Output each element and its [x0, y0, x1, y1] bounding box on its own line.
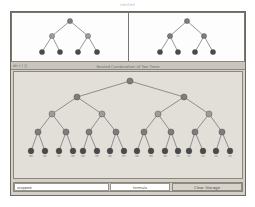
tree-node[interactable] [74, 94, 80, 100]
leaf-label: 05 [95, 155, 99, 158]
leaf-label: 15 [228, 155, 232, 158]
tree-edge [52, 21, 70, 36]
tree-edge [209, 114, 222, 132]
tree-node[interactable] [206, 111, 212, 117]
tree-node[interactable] [94, 49, 99, 54]
tree-node[interactable] [227, 148, 233, 154]
tree-edge [38, 114, 52, 132]
leaf-label: 13 [201, 155, 205, 158]
tree-node[interactable] [49, 111, 55, 117]
tree-edge [158, 114, 171, 132]
tree-node[interactable] [70, 148, 76, 154]
tree-edge [160, 36, 170, 52]
tree-edge [144, 114, 158, 132]
leaf-label: 12 [187, 155, 191, 158]
caption-bar: dir (-) [] Nested Combination of Two Tre… [11, 61, 245, 70]
leaf-label: 04 [81, 155, 85, 158]
tree-node[interactable] [148, 148, 154, 154]
status-field[interactable]: stopped [14, 183, 109, 191]
tree-edge [195, 114, 209, 132]
tree-node[interactable] [67, 18, 72, 23]
window-title-text: nested [0, 0, 255, 9]
tree-node[interactable] [49, 33, 54, 38]
top-tree-row [11, 12, 245, 62]
leaf-label: 00 [29, 155, 33, 158]
left-tree-graphic [12, 13, 129, 62]
tree-edge [187, 21, 204, 36]
tree-edge [77, 97, 102, 114]
leaf-label: 11 [176, 155, 180, 158]
tree-node[interactable] [127, 78, 133, 84]
tree-node[interactable] [219, 129, 225, 135]
tree-edge [52, 97, 77, 114]
leaf-label: 01 [43, 155, 47, 158]
tree-node[interactable] [121, 148, 127, 154]
formula-field[interactable]: formula [110, 183, 170, 191]
tree-node[interactable] [63, 129, 69, 135]
tree-edge [130, 81, 184, 97]
bottom-bar: stopped formula Clear Storage [13, 182, 243, 192]
tree-node[interactable] [213, 148, 219, 154]
tree-node[interactable] [113, 129, 119, 135]
tree-node[interactable] [168, 129, 174, 135]
tree-node[interactable] [184, 18, 189, 23]
tree-node[interactable] [201, 33, 206, 38]
tree-node[interactable] [186, 148, 192, 154]
right-tree-panel[interactable] [128, 12, 245, 62]
leaf-label: 06 [108, 155, 112, 158]
right-tree-graphic [129, 13, 245, 62]
tree-edge [89, 114, 102, 132]
tree-edge [102, 114, 116, 132]
nested-tree-graphic: 00010203040506070809101112131415 [14, 72, 243, 179]
tree-edge [42, 36, 52, 52]
tree-node[interactable] [75, 49, 80, 54]
tree-node[interactable] [181, 94, 187, 100]
clear-storage-button[interactable]: Clear Storage [172, 183, 242, 191]
tree-edge [78, 36, 88, 52]
tree-edge [170, 21, 187, 36]
tree-node[interactable] [134, 148, 140, 154]
tree-node[interactable] [57, 49, 62, 54]
leaf-label: 03 [71, 155, 75, 158]
tree-node[interactable] [107, 148, 113, 154]
tree-node[interactable] [94, 148, 100, 154]
tree-node[interactable] [99, 111, 105, 117]
leaf-label: 02 [57, 155, 61, 158]
tree-edge [77, 81, 130, 97]
caption-center-title: Nested Combination of Two Trees [11, 62, 245, 70]
application-window: dir (-) [] Nested Combination of Two Tre… [10, 11, 246, 196]
tree-node[interactable] [200, 148, 206, 154]
tree-node[interactable] [175, 148, 181, 154]
tree-edge [158, 97, 184, 114]
leaf-label: 07 [122, 155, 126, 158]
tree-node[interactable] [141, 129, 147, 135]
main-tree-canvas[interactable]: 00010203040506070809101112131415 [13, 71, 243, 179]
tree-node[interactable] [157, 49, 162, 54]
tree-node[interactable] [28, 148, 34, 154]
leaf-label: 10 [163, 155, 167, 158]
tree-node[interactable] [210, 49, 215, 54]
leaf-label: 09 [149, 155, 153, 158]
leaf-label: 14 [214, 155, 218, 158]
tree-node[interactable] [85, 33, 90, 38]
tree-node[interactable] [192, 49, 197, 54]
tree-node[interactable] [155, 111, 161, 117]
tree-node[interactable] [86, 129, 92, 135]
tree-node[interactable] [80, 148, 86, 154]
tree-node[interactable] [162, 148, 168, 154]
tree-node[interactable] [42, 148, 48, 154]
tree-node[interactable] [39, 49, 44, 54]
tree-node[interactable] [35, 129, 41, 135]
tree-node[interactable] [175, 49, 180, 54]
tree-node[interactable] [56, 148, 62, 154]
tree-edge [70, 21, 88, 36]
tree-edge [184, 97, 209, 114]
left-tree-panel[interactable] [11, 12, 129, 62]
tree-node[interactable] [167, 33, 172, 38]
tree-node[interactable] [192, 129, 198, 135]
tree-edge [52, 114, 66, 132]
leaf-label: 08 [135, 155, 139, 158]
